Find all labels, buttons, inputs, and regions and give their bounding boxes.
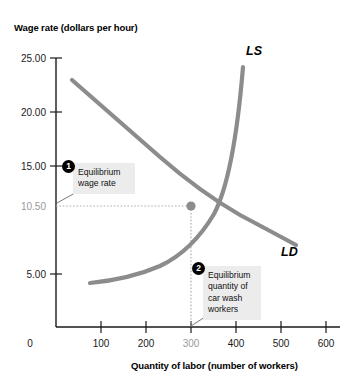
callout-2-line-4: workers (208, 304, 256, 315)
callout-equilibrium-wage-rate: Equilibrium wage rate (73, 163, 135, 194)
x-tick-label-100: 100 (93, 338, 110, 349)
x-tick-label-400: 400 (228, 338, 245, 349)
x-tick-label-300: 300 (183, 338, 200, 349)
x-tick-label-200: 200 (138, 338, 155, 349)
callout-2-badge: 2 (192, 262, 205, 275)
labor-supply-curve-label: LS (246, 44, 262, 58)
callout-2-line-3: car wash (208, 293, 256, 304)
callout-1-badge: 1 (62, 160, 75, 173)
y-tick-label-25: 25.00 (8, 53, 46, 64)
y-tick-label-20: 20.00 (8, 107, 46, 118)
callout-equilibrium-quantity: Equilibrium quantity of car wash workers (203, 266, 261, 320)
x-axis-title: Quantity of labor (number of workers) (131, 360, 298, 371)
callout-1-line-2: wage rate (78, 178, 130, 189)
callout-2-line-1: Equilibrium (208, 270, 256, 281)
wage-labor-market-chart: Wage rate (dollars per hour) 25.00 20.00 (0, 0, 356, 384)
labor-demand-curve-label: LD (281, 245, 298, 259)
y-tick-label-5: 5.00 (8, 269, 46, 280)
equilibrium-point-marker (186, 201, 195, 210)
callout-2-line-2: quantity of (208, 281, 256, 292)
x-tick-label-0: 0 (27, 338, 33, 349)
x-tick-label-500: 500 (273, 338, 290, 349)
y-tick-label-15: 15.00 (8, 161, 46, 172)
callout-1-badge-number: 1 (66, 161, 71, 171)
chart-plot-area (0, 0, 356, 384)
x-tick-label-600: 600 (318, 338, 335, 349)
callout-1-line-1: Equilibrium (78, 167, 130, 178)
callout-2-badge-number: 2 (196, 263, 201, 273)
y-tick-label-10-50: 10.50 (8, 201, 46, 212)
